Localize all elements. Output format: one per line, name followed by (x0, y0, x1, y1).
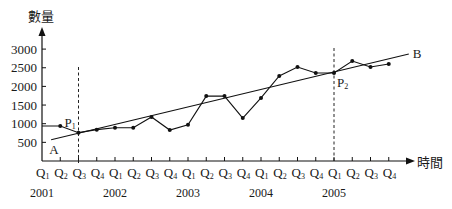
data-point (113, 126, 117, 130)
data-point (77, 131, 81, 135)
data-point (186, 123, 190, 127)
data-point (241, 116, 245, 120)
data-point (150, 115, 154, 119)
data-point (387, 62, 391, 66)
y-axis-arrow-icon (39, 27, 46, 36)
point-label-p1: P1 (65, 115, 76, 131)
data-point (204, 94, 208, 98)
x-tick-label: Q3 (146, 165, 159, 181)
y-tick-label: 1000 (11, 116, 37, 131)
data-series (42, 59, 391, 135)
x-axis-title: 時間 (417, 155, 443, 170)
point-label-p2: P2 (337, 75, 348, 91)
year-label: 2003 (176, 186, 200, 200)
x-tick-label: Q4 (164, 165, 177, 181)
data-point (259, 96, 263, 100)
data-point (168, 128, 172, 132)
x-tick-label: Q3 (219, 165, 232, 181)
y-tick-label: 500 (18, 135, 38, 150)
x-axis-arrow-icon (406, 158, 415, 165)
y-axis-title: 數量 (28, 9, 54, 24)
x-tick-label: Q3 (365, 165, 378, 181)
y-tick-label: 2000 (11, 79, 37, 94)
x-tick-label: Q1 (328, 165, 341, 181)
label-b: B (413, 46, 422, 61)
x-tick-label: Q4 (237, 165, 250, 181)
data-point (296, 65, 300, 69)
y-tick-label: 3000 (11, 42, 37, 57)
x-tick-label: Q1 (109, 165, 122, 181)
year-label: 2005 (322, 186, 346, 200)
x-tick-label: Q4 (383, 165, 396, 181)
trend-line (51, 54, 409, 140)
data-point (350, 59, 354, 63)
x-tick-label: Q2 (54, 165, 67, 181)
line-chart: 數量時間50010001500200025003000Q1Q2Q3Q4Q1Q2Q… (0, 0, 452, 209)
x-tick-label: Q2 (200, 165, 213, 181)
x-tick-label: Q1 (36, 165, 49, 181)
labels: 數量時間50010001500200025003000Q1Q2Q3Q4Q1Q2Q… (11, 9, 443, 200)
x-tick-label: Q2 (127, 165, 140, 181)
data-point (223, 94, 227, 98)
x-tick-label: Q3 (292, 165, 305, 181)
data-point (277, 74, 281, 78)
y-tick-label: 2500 (11, 60, 37, 75)
year-label: 2002 (103, 186, 127, 200)
x-tick-label: Q3 (73, 165, 86, 181)
dashed-guides (79, 48, 335, 163)
x-tick-label: Q1 (255, 165, 268, 181)
data-point (58, 124, 62, 128)
x-tick-label: Q4 (91, 165, 104, 181)
x-tick-label: Q2 (346, 165, 359, 181)
data-point (369, 65, 373, 69)
data-point (95, 128, 99, 132)
x-tick-label: Q1 (182, 165, 195, 181)
label-a: A (49, 142, 59, 157)
x-tick-label: Q4 (310, 165, 323, 181)
data-point (332, 71, 336, 75)
data-point (131, 126, 135, 130)
series-line (42, 61, 389, 133)
x-tick-label: Q2 (273, 165, 286, 181)
year-label: 2004 (249, 186, 273, 200)
year-label: 2001 (30, 186, 54, 200)
y-tick-label: 1500 (11, 98, 37, 113)
trend-line-ab (51, 54, 409, 140)
data-point (314, 71, 318, 75)
axes (39, 27, 416, 165)
